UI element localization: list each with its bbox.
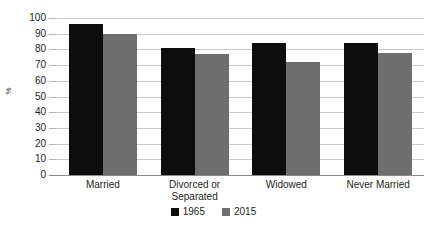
bar-pair <box>241 18 333 175</box>
y-tick-mark <box>49 34 57 35</box>
y-tick-label: 30 <box>13 123 46 133</box>
legend-swatch-icon <box>171 208 179 216</box>
y-tick-label: 60 <box>13 76 46 86</box>
bar <box>344 43 378 175</box>
bar-pair <box>332 18 424 175</box>
bar <box>252 43 286 175</box>
y-tick-mark <box>49 97 57 98</box>
y-tick-mark <box>49 49 57 50</box>
y-tick-mark <box>49 112 57 113</box>
bar <box>378 53 412 175</box>
y-tick-label: 100 <box>13 13 46 23</box>
y-tick-mark <box>49 159 57 160</box>
bar-group <box>241 18 333 175</box>
y-tick-label: 20 <box>13 139 46 149</box>
x-tick-label: Widowed <box>241 179 333 191</box>
y-tick-mark <box>49 81 57 82</box>
legend-label: 2015 <box>234 207 256 217</box>
legend-item: 1965 <box>171 207 205 217</box>
chart-legend: 19652015 <box>0 207 427 217</box>
plot-area <box>57 18 424 175</box>
bar-group <box>57 18 149 175</box>
y-tick-mark <box>49 18 57 19</box>
y-tick-label: 70 <box>13 60 46 70</box>
y-tick-label: 50 <box>13 92 46 102</box>
bar-group <box>332 18 424 175</box>
y-tick-mark <box>49 175 57 176</box>
y-tick-label: 90 <box>13 29 46 39</box>
y-tick-mark <box>49 144 57 145</box>
y-tick-label: 80 <box>13 44 46 54</box>
axis-baseline <box>57 175 424 176</box>
x-tick-label: Married <box>57 179 149 191</box>
bar <box>195 54 229 175</box>
bar-group <box>149 18 241 175</box>
y-tick-mark <box>49 65 57 66</box>
bar <box>161 48 195 175</box>
bar <box>69 24 103 175</box>
y-tick-label: 40 <box>13 107 46 117</box>
legend-label: 1965 <box>183 207 205 217</box>
bar <box>286 62 320 175</box>
bar-pair <box>57 18 149 175</box>
bar-chart: % 1009080706050403020100 MarriedDivorced… <box>0 0 427 230</box>
legend-item: 2015 <box>222 207 256 217</box>
y-tick-mark <box>49 128 57 129</box>
bar <box>103 34 137 175</box>
y-tick-label: 0 <box>13 170 46 180</box>
y-tick-label: 10 <box>13 154 46 164</box>
bar-pair <box>149 18 241 175</box>
legend-swatch-icon <box>222 208 230 216</box>
x-tick-label: Never Married <box>332 179 424 191</box>
x-tick-label: Divorced orSeparated <box>149 179 241 202</box>
